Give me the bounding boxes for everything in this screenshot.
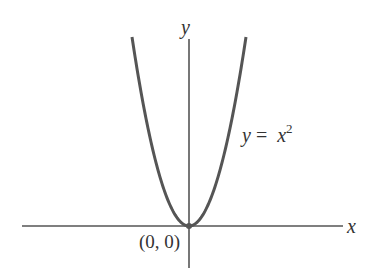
equation-lhs: y <box>242 124 251 146</box>
parabola-figure: y x (0, 0) y = x2 <box>0 0 370 280</box>
x-axis-label: x <box>347 216 356 236</box>
equation-exponent: 2 <box>286 121 293 136</box>
plot-canvas <box>0 0 370 280</box>
y-axis-label: y <box>181 17 190 37</box>
origin-label: (0, 0) <box>139 232 180 251</box>
curve-equation-label: y = x2 <box>242 122 293 145</box>
equation-equals: = <box>256 124 267 146</box>
origin-point <box>186 223 192 229</box>
equation-base: x <box>277 124 286 146</box>
